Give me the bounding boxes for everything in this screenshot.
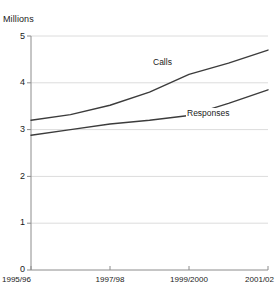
y-tick-label-5: 5 <box>3 32 25 41</box>
scan-artifact-top <box>22 0 276 5</box>
plot-area <box>0 0 276 306</box>
x-tick-label-2001-02: 2001/02 <box>212 275 274 284</box>
scan-artifact-bottom <box>18 299 276 306</box>
x-tick-label-1995-96: 1995/96 <box>2 275 31 284</box>
y-axis <box>27 36 31 270</box>
series-line-responses <box>31 90 268 135</box>
series-lines <box>31 50 268 135</box>
x-axis <box>31 266 268 270</box>
y-tick-label-3: 3 <box>3 125 25 134</box>
line-chart: Millions 5 4 3 2 1 0 <box>0 0 276 306</box>
series-line-calls <box>31 50 268 120</box>
y-tick-label-4: 4 <box>3 78 25 87</box>
y-tick-label-0: 0 <box>3 265 25 274</box>
y-axis-units-label: Millions <box>3 14 34 25</box>
y-tick-label-2: 2 <box>3 172 25 181</box>
x-tick-label-1997-98: 1997/98 <box>80 275 140 284</box>
series-label-responses: Responses <box>186 108 231 118</box>
series-label-calls: Calls <box>152 57 173 67</box>
y-tick-label-1: 1 <box>3 218 25 227</box>
